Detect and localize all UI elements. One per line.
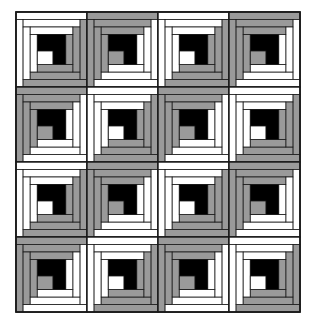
log-top	[87, 87, 158, 95]
log-top	[243, 177, 286, 185]
center-accent	[37, 126, 53, 140]
log-right	[293, 245, 300, 305]
log-bottom	[30, 297, 80, 305]
log-right	[293, 95, 300, 155]
log-bottom	[165, 80, 229, 88]
quilt-figure	[0, 0, 315, 325]
log-left	[101, 110, 108, 148]
log-left	[94, 27, 101, 80]
log-right	[222, 20, 229, 80]
log-left	[158, 245, 165, 313]
log-top	[30, 252, 73, 260]
log-top	[94, 170, 151, 178]
log-right	[151, 95, 158, 155]
log-bottom	[108, 290, 144, 298]
log-left	[236, 27, 243, 80]
log-top	[30, 27, 73, 35]
log-right	[66, 260, 73, 290]
log-right	[286, 252, 293, 297]
log-top	[229, 87, 300, 95]
log-bottom	[30, 147, 80, 155]
log-top	[87, 12, 158, 20]
log-right	[144, 177, 151, 222]
quilt-block	[16, 12, 87, 87]
log-right	[66, 35, 73, 65]
log-top	[30, 177, 73, 185]
log-bottom	[236, 155, 300, 163]
log-right	[279, 35, 286, 65]
log-bottom	[101, 72, 151, 80]
log-top	[236, 95, 293, 103]
log-top	[243, 27, 286, 35]
log-right	[144, 102, 151, 147]
log-top	[101, 27, 144, 35]
log-right	[293, 170, 300, 230]
log-right	[66, 185, 73, 215]
log-top	[236, 245, 293, 253]
log-bottom	[101, 222, 151, 230]
log-left	[158, 170, 165, 238]
log-left	[23, 27, 30, 80]
quilt-block	[158, 162, 229, 237]
log-bottom	[243, 222, 293, 230]
log-bottom	[30, 222, 80, 230]
center-accent	[108, 51, 124, 65]
quilt-block	[87, 87, 158, 162]
log-right	[144, 252, 151, 297]
log-left	[101, 35, 108, 73]
log-left	[23, 102, 30, 155]
log-bottom	[243, 147, 293, 155]
quilt-block	[229, 87, 300, 162]
log-left	[236, 177, 243, 230]
log-top	[23, 95, 80, 103]
center-accent	[250, 126, 266, 140]
log-left	[30, 110, 37, 148]
center-accent	[108, 201, 124, 215]
log-top	[229, 237, 300, 245]
log-right	[279, 185, 286, 215]
log-bottom	[236, 230, 300, 238]
log-right	[80, 20, 87, 80]
log-left	[87, 170, 94, 238]
log-left	[87, 95, 94, 163]
log-bottom	[179, 290, 215, 298]
quilt-block	[87, 237, 158, 312]
log-bottom	[172, 72, 222, 80]
log-bottom	[37, 140, 73, 148]
log-right	[215, 27, 222, 72]
log-top	[165, 245, 222, 253]
log-right	[151, 245, 158, 305]
log-bottom	[94, 155, 158, 163]
log-bottom	[172, 297, 222, 305]
log-top	[87, 237, 158, 245]
log-bottom	[101, 297, 151, 305]
log-top	[158, 12, 229, 20]
log-top	[158, 237, 229, 245]
center-accent	[37, 51, 53, 65]
log-right	[208, 260, 215, 290]
log-left	[30, 260, 37, 298]
log-bottom	[236, 305, 300, 313]
log-right	[137, 185, 144, 215]
log-bottom	[108, 65, 144, 73]
center-accent	[250, 201, 266, 215]
quilt-blocks-layer	[16, 12, 300, 312]
log-bottom	[243, 72, 293, 80]
log-top	[101, 102, 144, 110]
log-right	[279, 260, 286, 290]
log-left	[229, 170, 236, 238]
log-top	[165, 95, 222, 103]
log-left	[243, 35, 250, 73]
center-accent	[179, 51, 195, 65]
log-left	[165, 177, 172, 230]
log-left	[243, 110, 250, 148]
log-right	[137, 110, 144, 140]
quilt-block	[16, 87, 87, 162]
log-bottom	[250, 140, 285, 148]
log-left	[30, 35, 37, 73]
center-accent	[179, 276, 195, 290]
quilt-block	[229, 12, 300, 87]
log-left	[172, 260, 179, 298]
log-right	[286, 102, 293, 147]
log-left	[87, 20, 94, 88]
